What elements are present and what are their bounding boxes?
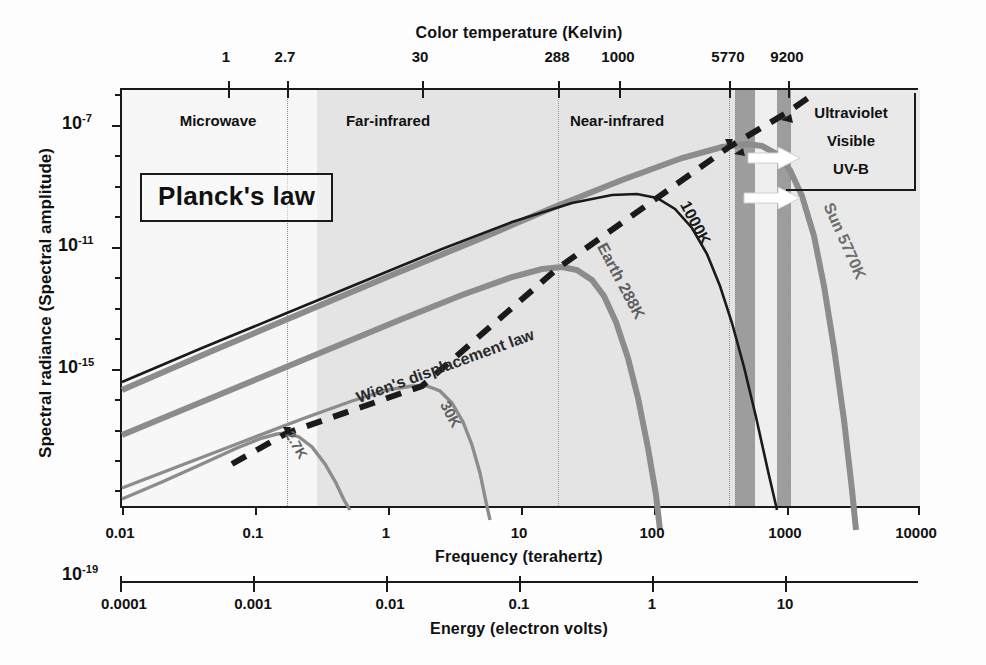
tick-top-1000 <box>619 81 621 90</box>
y-tick-label-1e-15: 10-15 <box>58 356 94 378</box>
color-temp-tick-9200: 9200 <box>770 48 803 65</box>
energy-axis-line <box>120 581 918 583</box>
tick-y-minor-9 <box>115 430 122 432</box>
legend-ultraviolet: Ultraviolet <box>786 104 916 121</box>
freq-tick-10000: 10000 <box>895 524 937 541</box>
legend-uvb: UV-B <box>786 160 916 177</box>
tick-y-minor-3 <box>115 186 122 188</box>
color-temp-tick-2p7: 2.7 <box>275 48 296 65</box>
tick-y-1e-11 <box>112 247 122 249</box>
tick-y-minor-8 <box>115 399 122 401</box>
band-label-near-infrared: Near-infrared <box>570 112 664 129</box>
freq-tick-10: 10 <box>511 524 528 541</box>
tick-y-minor-6 <box>115 308 122 310</box>
y-tick-label-1e-11: 10-11 <box>58 234 94 256</box>
tick-top-2p7 <box>287 81 289 90</box>
tick-y-minor-11 <box>115 490 122 492</box>
color-temp-tick-1: 1 <box>222 48 230 65</box>
planck-law-box: Planck's law <box>140 173 333 222</box>
chart-figure: Color temperature (Kelvin) 1 2.7 30 288 … <box>0 0 986 665</box>
color-temp-tick-30: 30 <box>412 48 429 65</box>
energy-tick-label-0.0001: 0.0001 <box>101 595 147 612</box>
band-label-microwave: Microwave <box>180 112 257 129</box>
tick-y-minor-1 <box>115 94 122 96</box>
y-tick-label-1e-7: 10-7 <box>62 112 92 134</box>
freq-tick-1: 1 <box>382 524 390 541</box>
ultraviolet-legend-box: Ultraviolet Visible UV-B <box>786 93 916 191</box>
freq-tick-0.1: 0.1 <box>243 524 264 541</box>
freq-tick-100: 100 <box>639 524 664 541</box>
color-temp-tick-5770: 5770 <box>711 48 744 65</box>
tick-y-minor-7 <box>115 338 122 340</box>
energy-tick-label-10: 10 <box>777 595 794 612</box>
tick-y-minor-2 <box>115 155 122 157</box>
legend-visible: Visible <box>786 132 916 149</box>
wiens-displacement-line <box>232 98 808 464</box>
tick-top-1 <box>228 81 230 90</box>
energy-tick-label-0.001: 0.001 <box>234 595 272 612</box>
planck-law-text: Planck's law <box>158 181 315 211</box>
energy-tick-label-0.1: 0.1 <box>509 595 530 612</box>
energy-tick-10 <box>785 576 787 592</box>
freq-tick-0.01: 0.01 <box>105 524 134 541</box>
band-label-far-infrared: Far-infrared <box>346 112 430 129</box>
tick-y-1e-15 <box>112 369 122 371</box>
energy-tick-0.01 <box>386 576 388 592</box>
energy-tick-0.0001 <box>120 576 122 592</box>
energy-tick-label-1: 1 <box>648 595 656 612</box>
freq-tick-1000: 1000 <box>768 524 801 541</box>
energy-tick-label-0.01: 0.01 <box>375 595 404 612</box>
y-axis-title: Spectral radiance (Spectral amplitude) <box>36 93 56 513</box>
tick-top-5770 <box>729 81 731 90</box>
top-axis-title: Color temperature (Kelvin) <box>415 24 622 42</box>
energy-tick-0.001 <box>253 576 255 592</box>
curve-1000k <box>122 194 777 510</box>
tick-top-9200 <box>788 81 790 90</box>
tick-y-minor-4 <box>115 216 122 218</box>
energy-tick-0.1 <box>519 576 521 592</box>
energy-tick-1 <box>652 576 654 592</box>
tick-y-1e-7 <box>112 125 122 127</box>
color-temp-tick-288: 288 <box>544 48 569 65</box>
tick-top-30 <box>422 81 424 90</box>
tick-y-minor-10 <box>115 460 122 462</box>
tick-top-288 <box>558 81 560 90</box>
color-temp-tick-1000: 1000 <box>601 48 634 65</box>
tick-y-minor-5 <box>115 277 122 279</box>
arrow-band-visible <box>734 148 745 156</box>
energy-axis-origin-label: 10-19 <box>62 563 98 585</box>
energy-axis-title: Energy (electron volts) <box>430 620 608 638</box>
frequency-axis-title: Frequency (terahertz) <box>435 548 603 566</box>
